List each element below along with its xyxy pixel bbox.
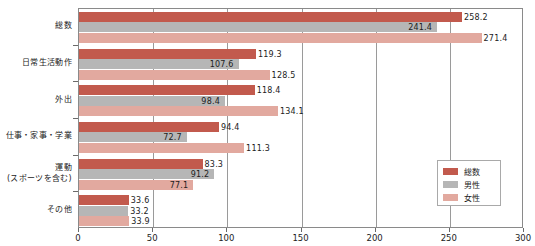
bar-row: 33.2 (79, 206, 522, 216)
bar-row: 107.6 (79, 59, 522, 69)
bar-female (79, 106, 278, 116)
bar-value-label: 98.4 (201, 96, 222, 105)
bar-value-label: 258.2 (462, 12, 488, 21)
category-axis-tick (73, 81, 78, 82)
bar-total (79, 49, 256, 59)
chart-legend: 総数男性女性 (437, 160, 501, 206)
bar-female (79, 143, 244, 153)
legend-label: 女性 (464, 192, 480, 203)
x-axis-tick (301, 228, 302, 232)
bar-row: 33.9 (79, 216, 522, 226)
bar-value-label: 72.7 (163, 133, 184, 142)
x-axis-tick (523, 228, 524, 232)
bar-group: 94.472.7111.3 (79, 122, 522, 153)
bar-female (79, 33, 482, 43)
category-label-line: 総数 (55, 21, 72, 32)
bar-row: 98.4 (79, 96, 522, 106)
x-axis-tick-label: 150 (292, 233, 308, 243)
bar-value-label: 241.4 (408, 23, 434, 32)
bar-total (79, 12, 462, 22)
bar-value-label: 107.6 (210, 60, 236, 69)
category-label-line: その他 (47, 204, 72, 215)
x-axis-tick-label: 0 (75, 233, 80, 243)
legend-item[interactable]: 男性 (443, 178, 500, 191)
category-axis-labels: 総数日常生活動作外出仕事・家事・学業運動(スポーツを含む)その他 (0, 0, 78, 246)
bar-row: 258.2 (79, 12, 522, 22)
bar-female (79, 216, 129, 226)
bar-value-label: 91.2 (191, 170, 212, 179)
category-axis-tick (73, 191, 78, 192)
category-label-line: 運動 (7, 163, 72, 174)
category-axis-tick (73, 155, 78, 156)
bar-value-label: 128.5 (270, 70, 296, 79)
bar-group: 118.498.4134.1 (79, 85, 522, 116)
bar-value-label: 119.3 (256, 49, 282, 58)
x-axis-tick-label: 250 (441, 233, 457, 243)
bar-row: 111.3 (79, 143, 522, 153)
bar-total (79, 195, 129, 205)
category-label: 総数 (55, 21, 72, 32)
bar-row: 128.5 (79, 70, 522, 80)
legend-item[interactable]: 総数 (443, 165, 500, 178)
legend-item[interactable]: 女性 (443, 191, 500, 204)
legend-label: 男性 (464, 179, 480, 190)
bar-male (79, 206, 128, 216)
category-label: 日常生活動作 (22, 58, 72, 69)
bar-row: 94.4 (79, 122, 522, 132)
x-axis-tick-label: 50 (147, 233, 158, 243)
category-axis-tick (73, 118, 78, 119)
bar-row: 271.4 (79, 33, 522, 43)
bar-value-label: 77.1 (170, 180, 191, 189)
x-axis-tick (152, 228, 153, 232)
x-axis-tick (226, 228, 227, 232)
legend-swatch-female (443, 194, 458, 201)
category-label: 外出 (55, 94, 72, 105)
bar-group: 119.3107.6128.5 (79, 49, 522, 80)
bar-value-label: 33.2 (128, 206, 149, 215)
bar-total (79, 85, 255, 95)
legend-swatch-male (443, 181, 458, 188)
bar-total (79, 122, 219, 132)
category-label-line: 仕事・家事・学業 (6, 131, 72, 142)
bar-female (79, 70, 270, 80)
category-label: 仕事・家事・学業 (6, 131, 72, 142)
bar-value-label: 94.4 (219, 122, 240, 131)
x-axis-tick (375, 228, 376, 232)
x-axis-tick (449, 228, 450, 232)
bar-value-label: 271.4 (482, 33, 508, 42)
bar-total (79, 159, 203, 169)
bar-value-label: 83.3 (203, 159, 224, 168)
bar-male (79, 22, 437, 32)
bar-row: 134.1 (79, 106, 522, 116)
bar-value-label: 118.4 (255, 86, 281, 95)
legend-swatch-total (443, 168, 458, 175)
bar-chart: 総数日常生活動作外出仕事・家事・学業運動(スポーツを含む)その他 258.224… (0, 0, 535, 246)
x-axis-tick (78, 228, 79, 232)
category-axis-tick (73, 45, 78, 46)
bar-value-label: 33.6 (129, 196, 150, 205)
bar-value-label: 111.3 (244, 143, 270, 152)
x-axis-tick-label: 300 (515, 233, 531, 243)
category-label-line: (スポーツを含む) (7, 173, 72, 184)
bar-group: 258.2241.4271.4 (79, 12, 522, 43)
x-axis-tick-label: 200 (367, 233, 383, 243)
bar-value-label: 33.9 (129, 217, 150, 226)
x-axis: 050100150200250300 (78, 228, 523, 246)
category-label-line: 外出 (55, 94, 72, 105)
category-label: その他 (47, 204, 72, 215)
bar-row: 72.7 (79, 132, 522, 142)
bar-value-label: 134.1 (278, 107, 304, 116)
bar-row: 118.4 (79, 85, 522, 95)
category-label-line: 日常生活動作 (22, 58, 72, 69)
legend-label: 総数 (464, 166, 480, 177)
bar-row: 241.4 (79, 22, 522, 32)
x-axis-tick-label: 100 (218, 233, 234, 243)
bar-row: 119.3 (79, 49, 522, 59)
category-label: 運動(スポーツを含む) (7, 163, 72, 184)
